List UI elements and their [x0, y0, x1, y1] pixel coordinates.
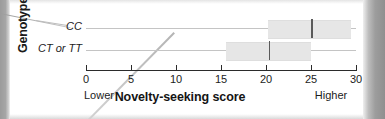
- plot-area: CC CT or TT: [86, 14, 356, 70]
- median-line-ct-or-tt: [269, 41, 271, 60]
- x-axis-title: Novelty-seeking score: [115, 90, 246, 104]
- y-tick-label-ct-or-tt: CT or TT: [38, 42, 82, 54]
- y-axis-title: Genotype: [16, 0, 30, 55]
- page-edge-bottom: [10, 114, 363, 119]
- x-tick-label-15: 15: [215, 73, 227, 85]
- range-bar-cc: [268, 20, 352, 39]
- callout-leader-line-cc: [36, 20, 68, 26]
- category-row-cc: CC: [86, 28, 356, 29]
- page-edge-left: [0, 0, 10, 119]
- chart-figure: Genotype CC CT or TT 051015202530 Lower …: [0, 0, 385, 119]
- x-tick-30: [356, 65, 357, 70]
- x-tick-5: [131, 65, 132, 70]
- x-tick-label-25: 25: [305, 73, 317, 85]
- page-edge-top: [10, 0, 363, 4]
- category-row-ct-or-tt: CT or TT: [86, 50, 356, 51]
- x-tick-0: [86, 65, 87, 70]
- x-tick-label-0: 0: [83, 73, 89, 85]
- x-tick-25: [311, 65, 312, 70]
- x-tick-10: [176, 65, 177, 70]
- x-axis-anchor-high: Higher: [315, 89, 347, 101]
- gridline-ct-or-tt: [86, 50, 356, 51]
- y-tick-label-cc: CC: [66, 20, 82, 32]
- x-axis-line: [86, 70, 357, 71]
- median-line-cc: [311, 19, 313, 38]
- x-tick-15: [221, 65, 222, 70]
- x-axis-anchor-low: Lower: [84, 89, 114, 101]
- callout-leader-line-top: [0, 13, 71, 29]
- x-tick-label-10: 10: [170, 73, 182, 85]
- x-tick-label-20: 20: [260, 73, 272, 85]
- x-tick-20: [266, 65, 267, 70]
- x-tick-label-5: 5: [128, 73, 134, 85]
- page-edge-right: [363, 0, 385, 119]
- x-tick-label-30: 30: [350, 73, 362, 85]
